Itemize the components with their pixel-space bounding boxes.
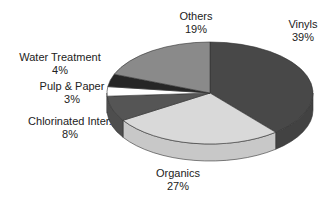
label-chlorinated-name: Chlorinated Inter. — [20, 115, 120, 128]
label-vinyls-pct: 39% — [278, 31, 328, 44]
label-chlorinated-pct: 8% — [20, 128, 120, 141]
label-vinyls: Vinyls 39% — [278, 18, 328, 44]
label-water-treatment: Water Treatment 4% — [10, 51, 110, 77]
label-water-name: Water Treatment — [10, 51, 110, 64]
label-pulp-pct: 3% — [32, 93, 112, 106]
label-organics-pct: 27% — [148, 180, 208, 193]
label-pulp-paper: Pulp & Paper 3% — [32, 80, 112, 106]
label-vinyls-name: Vinyls — [278, 18, 328, 31]
label-chlorinated: Chlorinated Inter. 8% — [20, 115, 120, 141]
label-organics-name: Organics — [148, 167, 208, 180]
label-pulp-name: Pulp & Paper — [32, 80, 112, 93]
label-others: Others 19% — [166, 10, 226, 36]
label-others-pct: 19% — [166, 23, 226, 36]
label-organics: Organics 27% — [148, 167, 208, 193]
label-water-pct: 4% — [10, 64, 110, 77]
label-others-name: Others — [166, 10, 226, 23]
pie-top-faces — [107, 42, 313, 144]
